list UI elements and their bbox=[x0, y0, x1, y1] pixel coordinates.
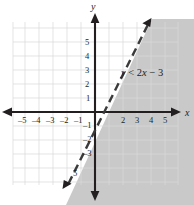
y-tick-label--5: 5 bbox=[73, 169, 77, 178]
x-axis-label: x bbox=[185, 108, 189, 118]
x-tick-label-4: 4 bbox=[149, 116, 153, 125]
inequality-annotation-tail: − 3 bbox=[147, 67, 163, 78]
inequality-annotation-relation: < 2 bbox=[126, 67, 142, 78]
y-tick-label-2: 2 bbox=[85, 80, 89, 89]
y-tick-label--3: –3 bbox=[83, 149, 92, 158]
x-tick-label--1: –1 bbox=[74, 116, 83, 125]
coordinate-plane-svg bbox=[0, 0, 194, 205]
x-tick-label--2: –2 bbox=[60, 116, 69, 125]
x-tick-label-5: 5 bbox=[163, 116, 167, 125]
y-tick-label-3: 3 bbox=[85, 66, 89, 75]
y-tick-label-4: 4 bbox=[85, 52, 89, 61]
y-tick-label--1: –1 bbox=[83, 121, 92, 130]
x-tick-label-2: 2 bbox=[121, 116, 125, 125]
y-tick-label-1: 1 bbox=[86, 94, 90, 103]
inequality-graph-figure: –5 –4 –3 –2 –1 2 3 4 5 5 4 3 2 1 –1 –2 –… bbox=[0, 0, 194, 205]
y-axis-label: y bbox=[91, 2, 95, 12]
y-tick-label--2: –2 bbox=[83, 135, 92, 144]
x-tick-label--4: –4 bbox=[32, 116, 41, 125]
x-tick-label--3: –3 bbox=[46, 116, 55, 125]
x-tick-label-3: 3 bbox=[135, 116, 139, 125]
x-tick-label--5: –5 bbox=[18, 116, 27, 125]
inequality-annotation: y < 2x − 3 bbox=[121, 68, 163, 79]
y-tick-label-5: 5 bbox=[85, 38, 89, 47]
